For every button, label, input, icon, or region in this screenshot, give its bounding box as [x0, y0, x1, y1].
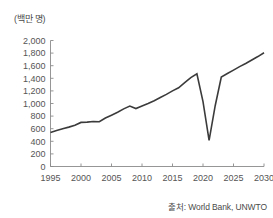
source-note: 출처: World Bank, UNWTO [168, 200, 267, 212]
x-axis-tick-labels: 19952000200520102015202020252030 [40, 173, 273, 183]
x-tick-label: 2010 [132, 173, 152, 183]
data-series-line [51, 53, 265, 141]
x-tick-label: 2020 [193, 173, 213, 183]
y-axis-tick-labels: 02004006008001,0001,2001,4001,6001,8002,… [23, 36, 46, 172]
x-tick-label: 2030 [254, 173, 273, 183]
y-tick-label: 1,200 [23, 86, 46, 96]
tourism-arrivals-chart: (백만 명) 02004006008001,0001,2001,4001,600… [0, 0, 273, 218]
x-tick-label: 2005 [101, 173, 121, 183]
x-tick-label: 1995 [40, 173, 60, 183]
y-tick-label: 1,400 [23, 74, 46, 84]
y-tick-label: 800 [30, 111, 45, 121]
x-tick-label: 2000 [71, 173, 91, 183]
y-tick-label: 2,000 [23, 36, 46, 46]
y-tick-label: 1,600 [23, 61, 46, 71]
x-tick-label: 2025 [223, 173, 243, 183]
x-tick-label: 2015 [162, 173, 182, 183]
y-tick-label: 200 [30, 149, 45, 159]
y-tick-label: 1,000 [23, 99, 46, 109]
y-tick-label: 0 [40, 162, 45, 172]
y-tick-label: 400 [30, 137, 45, 147]
y-tick-label: 1,800 [23, 48, 46, 58]
chart-plot-area: 02004006008001,0001,2001,4001,6001,8002,… [0, 0, 273, 218]
y-tick-label: 600 [30, 124, 45, 134]
